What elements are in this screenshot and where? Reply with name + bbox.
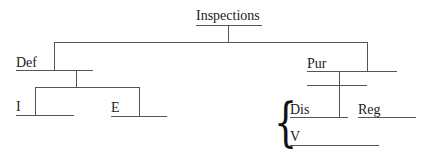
node-v-underline [290, 145, 379, 146]
node-reg-label: Reg [358, 103, 381, 117]
node-reg-underline [358, 117, 416, 118]
node-i-underline [16, 115, 74, 116]
node-e-label: E [111, 101, 120, 115]
node-v-label: V [290, 130, 300, 144]
node-e-underline [111, 116, 167, 117]
connector-to-pur [367, 42, 368, 71]
connector-to-def [54, 42, 55, 70]
node-def-label: Def [16, 56, 37, 70]
node-i-label: I [16, 100, 21, 114]
node-dis-label: Dis [290, 103, 309, 117]
connector-def-down [76, 70, 77, 87]
node-inspections-underline [196, 25, 262, 26]
node-def-underline [16, 70, 93, 71]
connector-root-bar [54, 42, 367, 43]
connector-pur-down [339, 71, 340, 117]
node-inspections-label: Inspections [196, 9, 260, 23]
connector-pur-bar [307, 85, 367, 86]
connector-def-bar [35, 87, 139, 88]
node-dis-underline [290, 117, 348, 118]
node-pur-underline [307, 71, 397, 72]
node-pur-label: Pur [307, 57, 326, 71]
connector-to-e [139, 87, 140, 116]
connector-inspections-down [228, 25, 229, 42]
connector-to-i [35, 87, 36, 115]
